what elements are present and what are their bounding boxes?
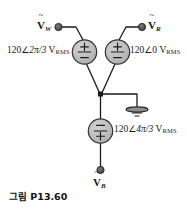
wire-w-terminal-lead [62,27,84,40]
source-b-unit-subscript: RMS [162,127,176,134]
source-w-angle: 2π/3 [29,45,46,55]
junction-node-dot [98,92,103,97]
tilde-accent-b: ~ [95,168,100,177]
wire-r-terminal-lead [119,27,139,40]
terminal-label-r-subscript: R [156,25,161,33]
source-r-angle: 0 [152,45,157,55]
tilde-accent-r: ~ [150,11,155,20]
source-w-unit-subscript: RMS [55,48,69,55]
terminal-label-w-symbol: ~V [37,19,45,31]
voltage-source-r[interactable] [105,40,129,64]
terminal-dot-w[interactable] [55,23,62,30]
source-label-r: 120∠0 VRMS [130,46,181,56]
terminal-label-w-subscript: W [45,25,51,33]
earth-ground-icon [126,107,148,116]
source-r-magnitude: 120 [130,45,144,55]
wire-node-to-ground [101,94,138,108]
terminal-label-b-subscript: B [101,182,106,190]
voltage-source-w[interactable] [72,40,96,64]
source-r-unit-subscript: RMS [166,48,180,55]
tilde-accent-w: ~ [39,11,44,20]
voltage-source-b[interactable] [88,119,112,143]
terminal-label-b: ~VB [93,176,106,190]
wire-w-to-node [87,64,101,94]
figure-container: ~VW ~VR ~VB 120∠2π/3 VRMS 120∠0 VRMS 120… [0,0,187,211]
source-b-angle: 4π/3 [136,124,153,134]
terminal-label-r-symbol: ~V [148,19,156,31]
source-w-magnitude: 120 [7,45,21,55]
terminal-label-w: ~VW [37,19,51,33]
source-label-w: 120∠2π/3 VRMS [7,46,70,56]
source-label-b: 120∠4π/3 VRMS [114,125,177,135]
terminal-label-b-symbol: ~V [93,176,101,188]
wire-r-to-node [102,64,116,94]
figure-caption: 그림 P13.60 [9,189,67,203]
terminal-label-r: ~VR [148,19,161,33]
terminal-dot-r[interactable] [138,23,145,30]
source-b-magnitude: 120 [114,124,128,134]
